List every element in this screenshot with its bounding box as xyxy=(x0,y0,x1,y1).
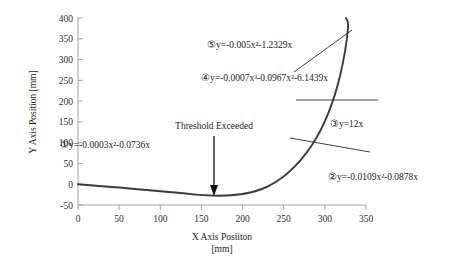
equation-label-4: ④y=-0.0007x³-0.0967x²-6.1439x xyxy=(201,73,328,83)
equation-label-3: ③y=12x xyxy=(330,119,364,129)
equation-label-2: ②y=-0.0109x²-0.0878x xyxy=(328,172,418,182)
equation-label-1: ①y=-0.0003x²-0.0736x xyxy=(60,140,150,150)
x-tick-label: 200 xyxy=(235,214,250,224)
y-tick-label: 50 xyxy=(64,159,74,169)
x-axis-unit: [mm] xyxy=(211,244,232,254)
x-tick-label: 350 xyxy=(359,214,374,224)
y-tick-label: 0 xyxy=(68,180,73,190)
y-tick-label: 350 xyxy=(59,34,74,44)
y-tick-label: 150 xyxy=(59,117,74,127)
x-tick-label: 250 xyxy=(277,214,292,224)
chart-figure: 400 350 300 250 200 150 100 50 0 -50 Y A… xyxy=(0,0,460,262)
threshold-exceeded-label: Threshold Exceeded xyxy=(175,121,253,131)
y-tick-label: 300 xyxy=(59,55,74,65)
x-tick-label: 50 xyxy=(114,214,124,224)
x-tick-label: 0 xyxy=(76,214,81,224)
equation-label-5: ⑤y=-0.005x²-1.2329x xyxy=(207,40,293,50)
y-tick-label: 400 xyxy=(59,14,74,24)
y-axis-title: Y Axis Position [mm] xyxy=(28,70,38,153)
y-tick-label: 250 xyxy=(59,76,74,86)
y-tick-label: 200 xyxy=(59,97,74,107)
x-tick-label: 300 xyxy=(318,214,333,224)
x-tick-label: 100 xyxy=(153,214,168,224)
x-axis-title: X Axis Posiiton xyxy=(192,232,252,242)
y-tick-label: -50 xyxy=(60,201,73,211)
x-tick-label: 150 xyxy=(194,214,209,224)
